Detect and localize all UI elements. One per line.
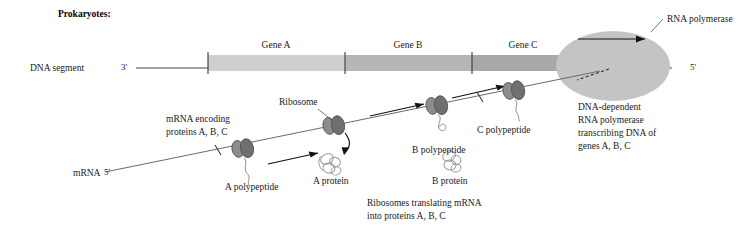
protein-a-loop-4 [330,166,342,176]
gene-a-label: Gene A [262,40,291,50]
polymerase-caption-line-4: genes A, B, C [578,141,631,151]
rna-polymerase-leader-line [651,19,663,32]
a-protein-label: A protein [313,176,349,186]
gene-b-bar [345,55,472,71]
mrna-callout-line-1: mRNA encoding [166,114,230,124]
protein-a-release-arrow-head [342,147,350,155]
ribosome-d-polypeptide-chain [514,100,520,122]
figure-title: Prokaryotes: [58,9,111,19]
mrna-tick-3 [477,92,483,102]
rna-polymerase-blob-group [556,19,670,101]
dna-segment-row-label: DNA segment [30,63,84,73]
rna-polymerase-blob [556,31,670,101]
rna-polymerase-callout-label: RNA polymerase [667,14,733,24]
ribosome-c-group [424,95,452,133]
mrna-five-prime-label: 5' [104,167,111,177]
protein-a-glyph [319,152,342,176]
prokaryote-transcription-translation-figure: Prokaryotes: DNA segment 3' 5' Gene A Ge… [0,0,747,227]
b-protein-label: B protein [432,176,468,186]
ribosomes-caption-line-1: Ribosomes translating mRNA [367,198,482,208]
mrna-row-label: mRNA [73,168,101,178]
gene-c-label: Gene C [509,40,538,50]
b-polypeptide-label: B polypeptide [412,145,466,155]
ribosome-callout-label: Ribosome [279,97,318,107]
gene-a-bar [208,55,345,71]
gene-b-label: Gene B [394,40,423,50]
dna-five-prime-label: 5' [690,62,697,72]
figure-canvas: Prokaryotes: DNA segment 3' 5' Gene A Ge… [0,0,747,227]
c-polypeptide-label: C polypeptide [477,125,531,135]
protein-a-release-arrow [342,133,350,155]
a-polypeptide-label: A polypeptide [225,182,279,192]
ribosome-b-group [321,115,346,138]
mrna-tick-1 [215,145,221,155]
ribosome-c-polypeptide-chain [436,114,446,131]
translation-arrow-1-head [309,152,318,158]
polymerase-caption-line-3: transcribing DNA of [578,128,657,138]
polymerase-caption-line-1: DNA-dependent [578,102,641,112]
mrna-callout-line-2: proteins A, B, C [166,127,228,137]
ribosomes-caption-line-2: into proteins A, B, C [367,211,446,221]
polymerase-caption-line-2: RNA polymerase [578,115,644,125]
ribosome-a-group [230,138,260,188]
dna-three-prime-label: 3' [121,62,128,72]
